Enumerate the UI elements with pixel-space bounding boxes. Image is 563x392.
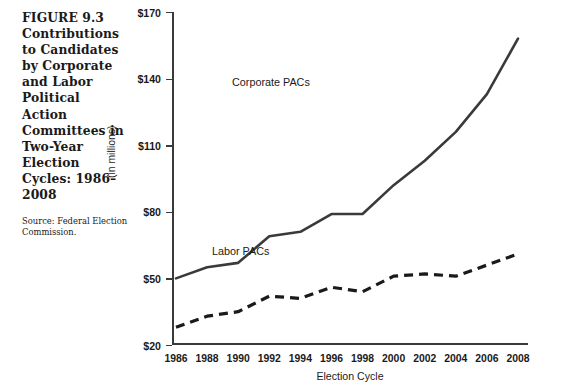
series-label-corporate-pacs: Corporate PACs xyxy=(232,76,310,88)
x-tick-label: 2006 xyxy=(475,353,498,364)
x-tick-label: 2002 xyxy=(413,353,436,364)
y-axis-line xyxy=(172,12,174,345)
x-tick-label: 2000 xyxy=(382,353,405,364)
y-tick-label: $50 xyxy=(143,273,161,285)
y-tick-50: $50 xyxy=(166,278,172,279)
figure-caption-block: FIGURE 9.3 Contributions to Candidates b… xyxy=(22,10,128,237)
y-tick-label: $110 xyxy=(138,140,161,152)
y-tick-20: $20 xyxy=(166,345,172,346)
y-tick-80: $80 xyxy=(166,212,172,213)
y-tick-140: $140 xyxy=(166,79,172,80)
y-tick-110: $110 xyxy=(166,145,172,146)
x-axis-title: Election Cycle xyxy=(172,370,528,382)
x-axis-line xyxy=(172,343,528,345)
y-tick-label: $140 xyxy=(137,73,161,85)
y-axis-title: (in millions) xyxy=(106,125,117,178)
chart-series-layer xyxy=(172,12,528,345)
x-tick-label: 2004 xyxy=(444,353,467,364)
x-tick-label: 1996 xyxy=(320,353,343,364)
chart-plot-area: $20$50$80$110$140$170 198619881990199219… xyxy=(172,12,528,345)
figure-source-note: Source: Federal Election Commission. xyxy=(22,216,128,237)
x-tick-label: 1998 xyxy=(351,353,374,364)
x-tick-label: 1994 xyxy=(289,353,312,364)
x-tick-label: 1992 xyxy=(258,353,281,364)
series-label-labor-pacs: Labor PACs xyxy=(212,245,269,257)
y-tick-label: $80 xyxy=(143,206,161,218)
y-tick-label: $20 xyxy=(143,340,161,352)
x-tick-label: 1988 xyxy=(196,353,219,364)
x-tick-label: 2008 xyxy=(506,353,529,364)
x-tick-label: 1990 xyxy=(227,353,250,364)
y-tick-170: $170 xyxy=(166,12,172,13)
series-line-corporate-pacs xyxy=(176,39,518,279)
figure-9-3: FIGURE 9.3 Contributions to Candidates b… xyxy=(0,0,563,392)
y-tick-label: $170 xyxy=(137,7,161,19)
x-tick-label: 1986 xyxy=(164,353,187,364)
